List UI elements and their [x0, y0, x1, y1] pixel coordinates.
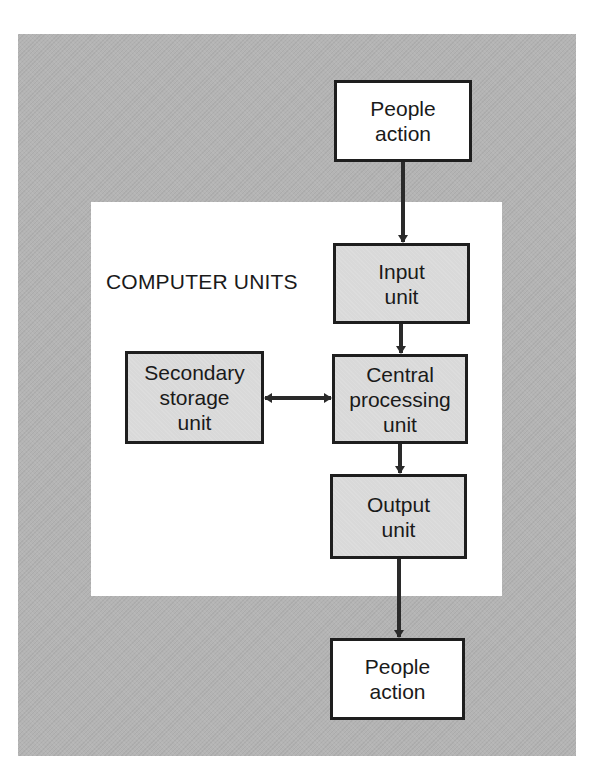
connector-arrows	[0, 0, 605, 772]
